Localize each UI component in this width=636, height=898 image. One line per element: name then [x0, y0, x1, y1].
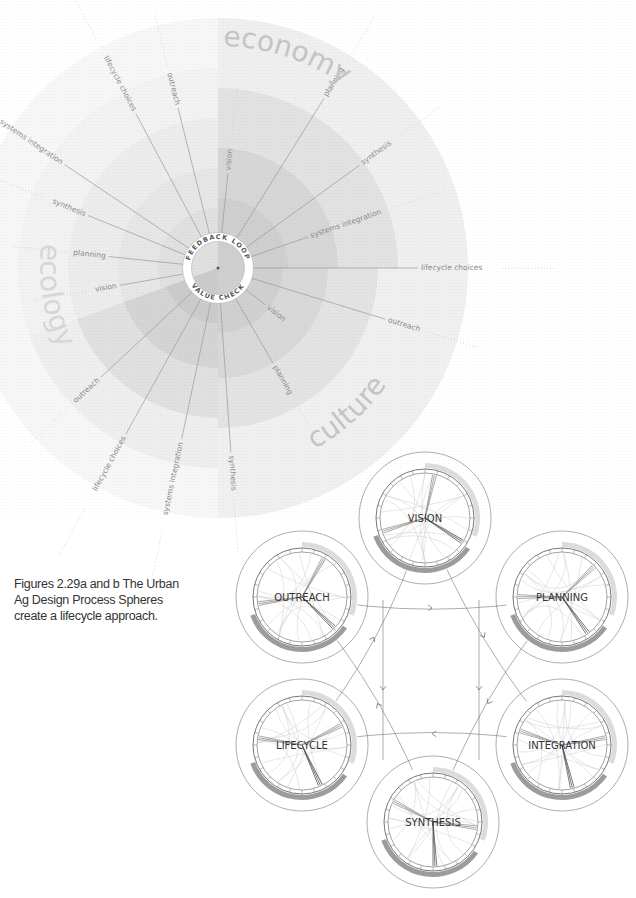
sphere-label: PLANNING — [536, 592, 588, 603]
sphere-label: LIFECYCLE — [276, 740, 328, 751]
sphere-planning: PLANNING — [506, 541, 618, 653]
arrow-icon — [432, 731, 436, 737]
arrow-icon — [428, 605, 432, 611]
figure-caption: Figures 2.29a and b The Urban Ag Design … — [14, 576, 214, 624]
sphere-label: VISION — [408, 513, 442, 524]
sphere-label: OUTREACH — [274, 592, 330, 603]
sphere-label: INTEGRATION — [528, 740, 596, 751]
sphere-integration: INTEGRATION — [506, 689, 618, 801]
sphere-synthesis: SYNTHESIS — [377, 766, 489, 878]
sphere-outreach: OUTREACH — [246, 541, 358, 653]
sphere-label: SYNTHESIS — [405, 817, 461, 828]
caption-line-3: create a lifecycle approach. — [14, 608, 214, 624]
spheres: VISIONOUTREACHPLANNINGLIFECYCLEINTEGRATI… — [246, 462, 618, 878]
radial-sphere-diagram: outreachlifecycle choicessystems integra… — [0, 0, 636, 583]
spoke-label: lifecycle choices — [421, 263, 482, 272]
caption-line-2: Ag Design Process Spheres — [14, 592, 214, 608]
sphere-lifecycle: LIFECYCLE — [246, 689, 358, 801]
sphere-vision: VISION — [369, 462, 481, 574]
urban-ag-design-process-figure: outreachlifecycle choicessystems integra… — [0, 0, 636, 898]
caption-line-1: Figures 2.29a and b The Urban — [14, 576, 214, 592]
